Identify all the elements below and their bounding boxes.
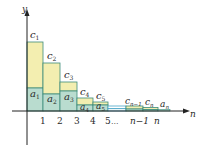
bar-c2-upper xyxy=(43,63,60,94)
label-c2: c2 xyxy=(47,50,57,62)
bar-c3-upper xyxy=(60,82,77,91)
y-axis-label: y xyxy=(21,4,28,14)
label-cn-minus-1: cn−1 xyxy=(125,96,142,107)
label-c3: c3 xyxy=(64,69,74,81)
label-an: an xyxy=(160,99,169,110)
label-c1: c1 xyxy=(30,29,39,41)
series-comparison-diagram: y n 1 2 3 4 5 ... n−1 n c1 c2 c3 c4 c5 c… xyxy=(0,0,201,153)
x-tick-1: 1 xyxy=(40,116,46,126)
bar-c1-upper xyxy=(27,42,43,88)
label-cn: cn xyxy=(145,97,154,108)
label-c4: c4 xyxy=(80,86,90,98)
x-tick-n-minus-1: n−1 xyxy=(130,116,149,126)
x-axis-arrow-icon xyxy=(183,109,190,114)
x-tick-4: 4 xyxy=(90,116,96,126)
x-tick-n: n xyxy=(154,116,160,126)
x-tick-ellipsis: ... xyxy=(111,117,119,126)
x-axis-label: n xyxy=(190,109,196,119)
x-tick-2: 2 xyxy=(57,116,63,126)
x-tick-3: 3 xyxy=(74,116,80,126)
